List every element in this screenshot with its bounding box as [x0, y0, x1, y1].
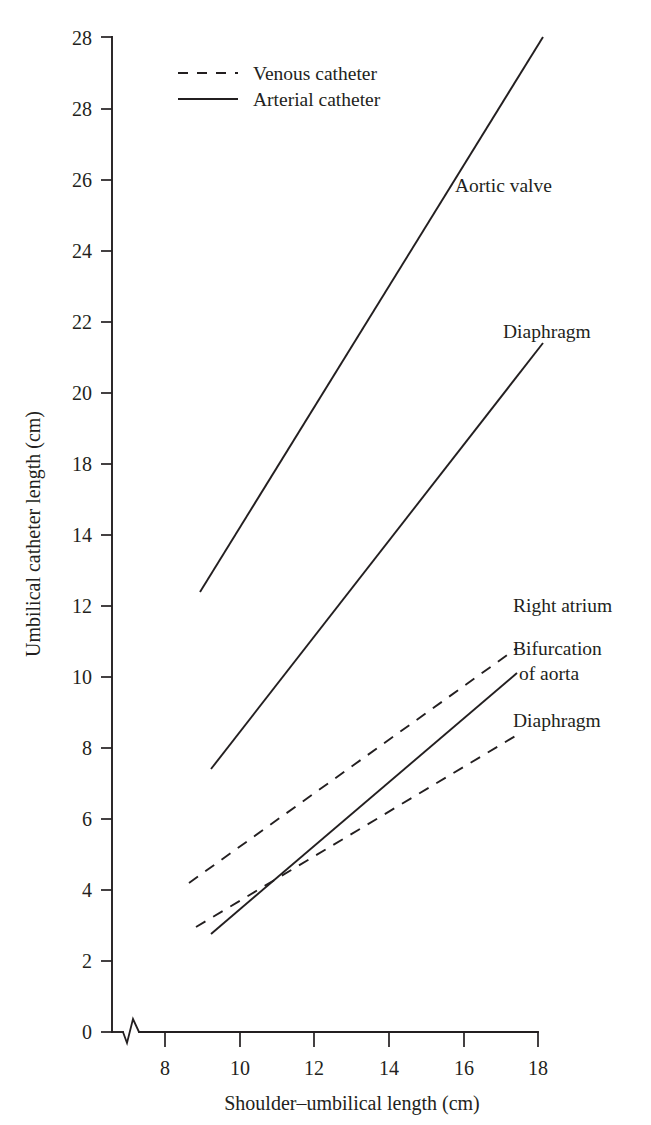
- x-axis-tick-labels: 8 10 12 14 16 18: [160, 1057, 548, 1079]
- line-chart: 0 2 4 6 8 10 12 14 18 20 22 24 26 28 28 …: [0, 0, 651, 1125]
- x-axis-title: Shoulder–umbilical length (cm): [224, 1092, 480, 1115]
- y-tick-label-4: 4: [82, 879, 92, 901]
- y-tick-label-26: 28: [72, 98, 92, 120]
- x-tick-label-12: 12: [304, 1057, 324, 1079]
- series-label-bifurcation-line1: Bifurcation: [513, 638, 602, 659]
- y-tick-label-20: 22: [72, 311, 92, 333]
- x-axis-break-zigzag: [123, 1019, 139, 1043]
- chart-container: 0 2 4 6 8 10 12 14 18 20 22 24 26 28 28 …: [0, 0, 651, 1125]
- legend-item-venous: Venous catheter: [178, 63, 377, 84]
- legend: Venous catheter Arterial catheter: [178, 63, 381, 110]
- x-tick-label-10: 10: [230, 1057, 250, 1079]
- x-tick-label-18: 18: [528, 1057, 548, 1079]
- series-label-right-atrium: Right atrium: [513, 595, 612, 616]
- series-line-diaphragm-arterial: [211, 343, 543, 769]
- series-label-diaphragm-arterial: Diaphragm: [503, 321, 591, 342]
- y-axis-ticks: [101, 37, 112, 1032]
- y-tick-label-12: 12: [72, 595, 92, 617]
- y-tick-label-10: 10: [72, 666, 92, 688]
- series-label-aortic-valve: Aortic valve: [455, 175, 552, 196]
- series-group: [189, 37, 543, 934]
- legend-label-arterial: Arterial catheter: [253, 89, 381, 110]
- series-line-bifurcation-of-aorta: [211, 673, 517, 934]
- series-annotations: Aortic valve Diaphragm Right atrium Bifu…: [455, 175, 612, 731]
- y-tick-label-8: 8: [82, 737, 92, 759]
- y-tick-label-2: 2: [82, 950, 92, 972]
- y-tick-label-18: 20: [72, 382, 92, 404]
- y-tick-label-0: 0: [82, 1021, 92, 1043]
- y-tick-label-16: 18: [72, 453, 92, 475]
- y-axis-title: Umbilical catheter length (cm): [22, 411, 45, 657]
- x-axis-ticks: [165, 1032, 538, 1047]
- y-tick-label-28: 28: [72, 27, 92, 49]
- x-tick-label-8: 8: [160, 1057, 170, 1079]
- x-tick-label-14: 14: [379, 1057, 399, 1079]
- series-line-right-atrium: [189, 648, 517, 883]
- y-axis-tick-labels: 0 2 4 6 8 10 12 14 18 20 22 24 26 28 28: [72, 27, 92, 1043]
- series-label-bifurcation-line2: of aorta: [519, 663, 579, 684]
- series-label-diaphragm-venous: Diaphragm: [513, 710, 601, 731]
- y-tick-label-6: 6: [82, 808, 92, 830]
- x-tick-label-16: 16: [454, 1057, 474, 1079]
- legend-item-arterial: Arterial catheter: [178, 89, 381, 110]
- series-line-aortic-valve: [200, 37, 543, 592]
- y-tick-label-24: 26: [72, 169, 92, 191]
- legend-label-venous: Venous catheter: [253, 63, 377, 84]
- y-tick-label-14: 14: [72, 524, 92, 546]
- y-tick-label-22: 24: [72, 240, 92, 262]
